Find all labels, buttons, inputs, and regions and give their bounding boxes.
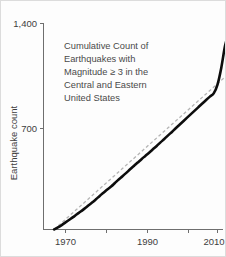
earthquake-cumulative-chart: 1,400 700 1970 1990 2010 Earthquake coun…: [1, 1, 226, 257]
chart-annotation: Cumulative Count of Earthquakes with Mag…: [64, 41, 149, 103]
x-tick-label-1990: 1990: [137, 236, 158, 247]
y-axis-ticks: [40, 24, 44, 129]
annotation-line-3: Magnitude ≥ 3 in the: [64, 67, 148, 77]
annotation-line-2: Earthquakes with: [64, 54, 135, 64]
y-tick-label-700: 700: [21, 123, 37, 134]
annotation-line-1: Cumulative Count of: [64, 41, 149, 51]
x-tick-label-2010: 2010: [203, 236, 224, 247]
annotation-line-4: Central and Eastern: [64, 80, 147, 90]
y-tick-label-1400: 1,400: [13, 18, 37, 29]
x-axis-ticks: [66, 230, 218, 234]
annotation-line-5: United States: [64, 93, 120, 103]
x-tick-label-1970: 1970: [55, 236, 76, 247]
chart-screenshot: 1,400 700 1970 1990 2010 Earthquake coun…: [0, 0, 226, 257]
y-axis-title: Earthquake count: [8, 105, 19, 180]
